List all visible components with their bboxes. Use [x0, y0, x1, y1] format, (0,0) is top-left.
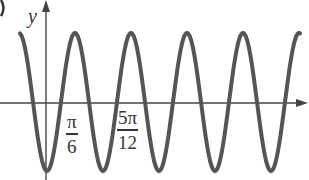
tick-denominator: 6	[67, 135, 77, 156]
tick-numerator: 5π	[117, 108, 138, 129]
corner-fragment	[1, 0, 4, 16]
sinusoid-curve	[20, 33, 300, 171]
y-axis-label: y	[28, 6, 37, 26]
tick-numerator: π	[66, 112, 78, 133]
y-axis-arrow-icon	[42, 0, 50, 12]
tick-denominator: 12	[118, 131, 137, 152]
tick-label-5pi-over-12: 5π 12	[117, 108, 138, 152]
sinusoid-chart	[0, 0, 309, 180]
x-axis-arrow-icon	[296, 99, 308, 107]
tick-label-pi-over-6: π 6	[66, 112, 78, 156]
